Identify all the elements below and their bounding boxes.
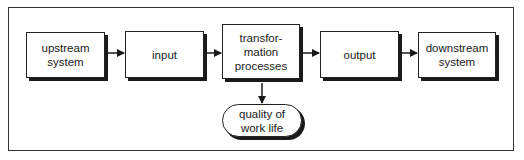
node-output: output: [320, 31, 399, 78]
node-label: output: [344, 48, 376, 62]
node-quality-of-work-life: quality of work life: [222, 104, 302, 137]
node-label: quality of work life: [239, 107, 285, 135]
node-downstream-system: downstream system: [418, 32, 496, 78]
node-label: downstream system: [426, 41, 489, 69]
node-label: upstream system: [42, 41, 90, 69]
node-transformation-processes: transfor- mation processes: [222, 24, 300, 79]
node-label: input: [152, 48, 177, 62]
node-input: input: [125, 31, 204, 78]
node-upstream-system: upstream system: [26, 32, 105, 78]
node-label: transfor- mation processes: [235, 31, 287, 73]
